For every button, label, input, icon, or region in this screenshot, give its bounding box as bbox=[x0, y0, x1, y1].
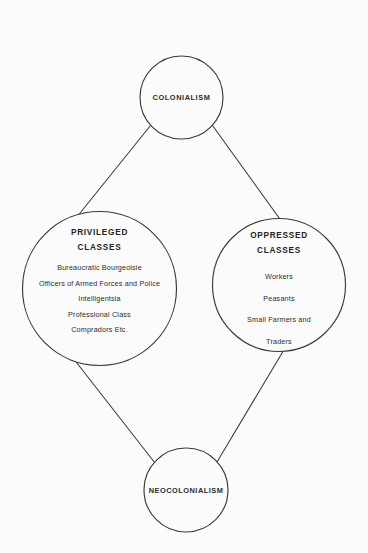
diagram-canvas: COLONIALISM PRIVILEGED CLASSES Bureaucra… bbox=[0, 0, 368, 553]
diagram-vector-layer bbox=[0, 0, 368, 553]
circle-privileged-classes bbox=[23, 212, 177, 366]
circle-oppressed-classes bbox=[213, 219, 346, 352]
circle-colonialism bbox=[140, 56, 223, 139]
circle-neocolonialism bbox=[144, 448, 228, 532]
